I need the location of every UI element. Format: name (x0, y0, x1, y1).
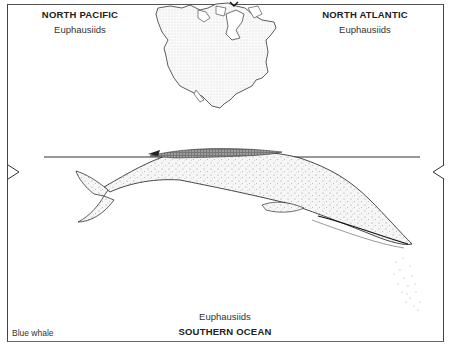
prey-north-pacific: Euphausiids (20, 24, 140, 35)
prey-southern-ocean: Euphausiids (165, 311, 285, 322)
right-marker-triangle-icon (433, 165, 444, 179)
region-north-pacific: NORTH PACIFIC (20, 9, 140, 20)
illustration (0, 0, 450, 348)
blue-whale-illustration (76, 149, 421, 311)
prey-north-atlantic: Euphausiids (300, 24, 430, 35)
region-north-atlantic: NORTH ATLANTIC (300, 9, 430, 20)
north-america-map-icon (156, 2, 276, 108)
left-marker-triangle-icon (8, 165, 19, 179)
region-southern-ocean: SOUTHERN OCEAN (160, 326, 290, 337)
species-label: Blue whale (12, 328, 54, 338)
